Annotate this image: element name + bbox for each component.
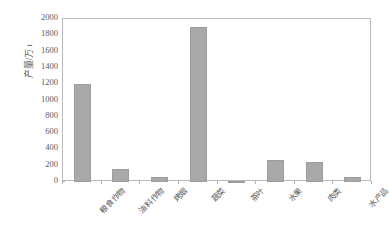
plot-area xyxy=(62,18,371,181)
x-tick-mark xyxy=(139,181,140,184)
x-category-label: 茶叶 xyxy=(248,186,266,204)
x-tick-mark xyxy=(62,181,63,184)
y-tick-label: 1200 xyxy=(20,78,58,87)
bar xyxy=(267,160,284,182)
bar xyxy=(151,177,168,182)
y-tick-label: 1800 xyxy=(20,29,58,38)
x-tick-mark xyxy=(294,181,295,184)
x-tick-mark xyxy=(255,181,256,184)
bar xyxy=(228,181,245,183)
x-category-label: 烤烟 xyxy=(171,186,189,204)
y-tick-label: 600 xyxy=(20,127,58,136)
x-tick-mark xyxy=(371,181,372,184)
x-category-label: 肉类 xyxy=(326,186,344,204)
x-category-label: 水果 xyxy=(287,186,305,204)
y-tick-label: 200 xyxy=(20,160,58,169)
x-category-label: 油料作物 xyxy=(137,186,166,215)
bar xyxy=(190,27,207,182)
bar xyxy=(306,162,323,182)
y-tick-label: 1600 xyxy=(20,46,58,55)
x-category-label: 水产品 xyxy=(367,186,389,209)
x-tick-mark xyxy=(217,181,218,184)
bar-chart: 产量/万 t 200018001600140012001000800600400… xyxy=(0,0,389,237)
x-tick-mark xyxy=(101,181,102,184)
y-tick-label: 2000 xyxy=(20,13,58,22)
bar xyxy=(74,84,91,182)
y-tick-label: 1400 xyxy=(20,62,58,71)
x-tick-mark xyxy=(178,181,179,184)
bar xyxy=(112,169,129,182)
y-tick-label: 1000 xyxy=(20,95,58,104)
y-tick-label: 0 xyxy=(20,176,58,185)
y-tick-label: 800 xyxy=(20,111,58,120)
bar xyxy=(344,177,361,182)
x-tick-mark xyxy=(332,181,333,184)
x-category-label: 蔬菜 xyxy=(210,186,228,204)
y-tick-label: 400 xyxy=(20,143,58,152)
x-category-label: 粮食作物 xyxy=(99,186,128,215)
